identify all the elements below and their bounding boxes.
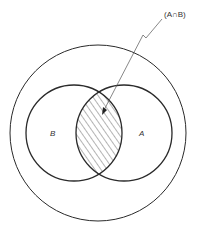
set-a-label: A xyxy=(138,129,144,138)
annotation-leader-line xyxy=(103,19,162,112)
venn-diagram: B A (A∩B) xyxy=(0,0,201,236)
intersection-annotation: (A∩B) xyxy=(164,10,186,19)
set-b-label: B xyxy=(50,129,56,138)
